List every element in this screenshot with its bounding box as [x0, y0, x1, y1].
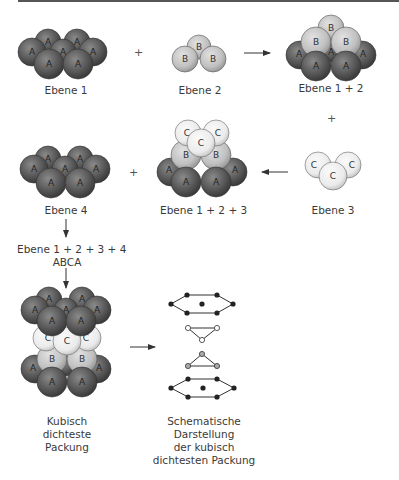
label-schema-3: der kubisch [152, 441, 256, 453]
svg-text:A: A [313, 61, 320, 71]
svg-text:A: A [213, 177, 220, 187]
label-kubisch-1: Kubisch [27, 415, 107, 427]
svg-text:A: A [296, 49, 303, 59]
svg-text:A: A [77, 178, 84, 188]
svg-text:A: A [48, 178, 55, 188]
svg-text:B: B [49, 354, 55, 364]
packing-diagram: A A A A A A A B B B A A A B B B A A C C … [0, 0, 399, 480]
svg-text:A: A [94, 305, 101, 315]
svg-text:B: B [343, 37, 349, 47]
svg-text:A: A [32, 305, 39, 315]
svg-text:A: A [49, 316, 56, 326]
label-schema-1: Schematische [152, 415, 256, 427]
svg-text:B: B [328, 23, 334, 33]
svg-text:A: A [166, 165, 173, 175]
svg-text:A: A [31, 164, 38, 174]
svg-text:A: A [75, 59, 82, 69]
svg-text:A: A [96, 363, 103, 373]
label-ebene-3: Ebene 3 [305, 204, 361, 216]
svg-text:A: A [183, 177, 190, 187]
svg-text:A: A [74, 37, 81, 47]
layer-1-spheres: A A A A A A A [18, 29, 107, 79]
svg-text:A: A [78, 316, 85, 326]
layer-12-spheres: A A A B B B A A [286, 15, 376, 81]
label-schema-2: Darstellung [152, 428, 256, 440]
svg-text:C: C [215, 128, 221, 138]
plus-operator-1: + [134, 46, 143, 59]
plus-operator-3: + [129, 166, 138, 179]
svg-text:A: A [29, 47, 36, 57]
layer-2-spheres: B B B [172, 35, 226, 72]
svg-text:B: B [213, 150, 219, 160]
svg-text:A: A [30, 363, 37, 373]
label-ebene-1: Ebene 1 [38, 84, 94, 96]
label-schema-4: dichtesten Packung [152, 454, 256, 466]
label-ebene-1-2-3-4: Ebene 1 + 2 + 3 + 4 [17, 243, 117, 255]
svg-text:C: C [349, 160, 355, 170]
svg-text:B: B [313, 37, 319, 47]
layer-3-spheres: C C C [305, 152, 361, 190]
layer-4-spheres: A A A A A A A [20, 146, 110, 198]
schematic-layers [171, 295, 234, 397]
svg-text:A: A [93, 164, 100, 174]
svg-text:C: C [330, 171, 336, 181]
plus-operator-2: + [327, 112, 336, 125]
svg-text:B: B [196, 42, 202, 52]
label-ebene-4: Ebene 4 [38, 204, 94, 216]
svg-text:B: B [183, 150, 189, 160]
label-ebene-1-2: Ebene 1 + 2 [296, 82, 366, 94]
layer-123-spheres: A A B B C C C A A [157, 120, 247, 197]
svg-text:C: C [64, 336, 70, 346]
abca-stack-spheres: A A B B A A C C C A A A A A A A [21, 287, 111, 397]
svg-text:A: A [77, 154, 84, 164]
label-ebene-1-2-3: Ebene 1 + 2 + 3 [160, 204, 244, 216]
svg-text:A: A [232, 165, 239, 175]
svg-text:A: A [343, 61, 350, 71]
label-abca: ABCA [17, 256, 117, 268]
svg-text:A: A [49, 377, 56, 387]
svg-text:B: B [210, 54, 216, 64]
label-ebene-2: Ebene 2 [172, 84, 228, 96]
svg-text:A: A [79, 377, 86, 387]
label-kubisch-2: dichteste [27, 428, 107, 440]
svg-text:A: A [90, 47, 97, 57]
svg-text:B: B [182, 54, 188, 64]
svg-text:A: A [45, 37, 52, 47]
svg-text:C: C [198, 138, 204, 148]
svg-text:A: A [46, 59, 53, 69]
svg-text:C: C [311, 160, 317, 170]
label-kubisch-3: Packung [27, 441, 107, 453]
svg-text:A: A [62, 164, 69, 174]
svg-text:B: B [79, 354, 85, 364]
svg-text:A: A [360, 49, 367, 59]
